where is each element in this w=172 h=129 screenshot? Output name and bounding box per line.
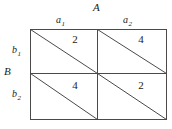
column-strategy-label-a2: a2 bbox=[123, 15, 132, 28]
row-strategy-b1-subscript: 1 bbox=[17, 50, 21, 58]
payoff-value-b1-a2: 4 bbox=[134, 34, 148, 45]
cell-diagonal-b1-a1 bbox=[31, 30, 98, 74]
payoff-matrix-figure: A B a1 a2 b1 b2 2 4 4 2 bbox=[0, 0, 172, 129]
column-player-label: A bbox=[93, 2, 100, 13]
payoff-value-b2-a1: 4 bbox=[68, 80, 82, 91]
cell-diagonal-b1-a2 bbox=[98, 30, 167, 74]
row-strategy-label-b2: b2 bbox=[12, 89, 21, 102]
cell-diagonal-b2-a2 bbox=[98, 74, 167, 120]
row-strategy-b2-subscript: 2 bbox=[17, 94, 21, 102]
column-strategy-a1-subscript: 1 bbox=[61, 20, 65, 28]
row-player-label: B bbox=[4, 66, 11, 77]
cell-diagonal-b2-a1 bbox=[31, 74, 98, 120]
column-strategy-a2-subscript: 2 bbox=[128, 20, 132, 28]
payoff-value-b2-a2: 2 bbox=[134, 80, 148, 91]
column-strategy-label-a1: a1 bbox=[56, 15, 65, 28]
row-strategy-label-b1: b1 bbox=[12, 45, 21, 58]
payoff-value-b1-a1: 2 bbox=[68, 34, 82, 45]
